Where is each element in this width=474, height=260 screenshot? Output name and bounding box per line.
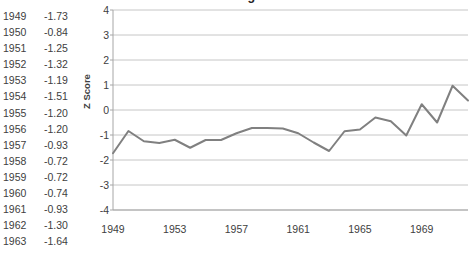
y-axis-tick-label: -3 bbox=[89, 180, 109, 191]
y-axis-tick-label: 0 bbox=[89, 105, 109, 116]
table-cell-year: 1952 bbox=[3, 56, 26, 72]
x-axis-tick-label: 1953 bbox=[152, 224, 198, 235]
table-cell-year: 1950 bbox=[3, 24, 26, 40]
chart-page: Scaled Gage 1949-1.731950-0.841951-1.251… bbox=[0, 0, 474, 260]
x-axis-tick-label: 1957 bbox=[213, 224, 259, 235]
y-axis-tick-label: 1 bbox=[89, 80, 109, 91]
y-axis-tick-label: -2 bbox=[89, 155, 109, 166]
x-axis-tick-label: 1965 bbox=[337, 224, 383, 235]
table-cell-year: 1956 bbox=[3, 121, 26, 137]
plot-area bbox=[75, 0, 474, 245]
table-cell-year: 1958 bbox=[3, 153, 26, 169]
y-axis-tick-label: -4 bbox=[89, 205, 109, 216]
x-axis-tick-label: 1949 bbox=[90, 224, 136, 235]
table-cell-year: 1959 bbox=[3, 169, 26, 185]
table-cell-year: 1961 bbox=[3, 201, 26, 217]
table-cell-year: 1957 bbox=[3, 137, 26, 153]
y-axis-tick-label: -1 bbox=[89, 130, 109, 141]
line-chart: Z Score 43210-1-2-3-41949195319571961196… bbox=[75, 0, 474, 245]
table-cell-year: 1960 bbox=[3, 185, 26, 201]
x-axis-tick-label: 1969 bbox=[399, 224, 445, 235]
table-cell-year: 1955 bbox=[3, 105, 26, 121]
table-cell-year: 1963 bbox=[3, 233, 26, 249]
y-axis-tick-label: 4 bbox=[89, 5, 109, 16]
y-axis-tick-label: 3 bbox=[89, 30, 109, 41]
table-cell-year: 1953 bbox=[3, 72, 26, 88]
table-cell-year: 1949 bbox=[3, 8, 26, 24]
x-axis-tick-label: 1961 bbox=[275, 224, 321, 235]
y-axis-tick-label: 2 bbox=[89, 55, 109, 66]
data-line-series bbox=[113, 86, 468, 154]
table-cell-year: 1951 bbox=[3, 40, 26, 56]
table-cell-year: 1954 bbox=[3, 88, 26, 104]
table-cell-year: 1962 bbox=[3, 217, 26, 233]
